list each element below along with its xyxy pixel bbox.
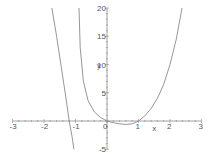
x-tick-label: 2: [167, 122, 172, 131]
x-tick-label: -1: [73, 122, 81, 131]
x-tick-label: 1: [136, 122, 141, 131]
y-tick-label: -5: [99, 145, 107, 154]
axis-labels: -3-2-10123-55101520xy: [10, 4, 204, 154]
x-axis-label: x: [152, 124, 156, 133]
y-axis-label: y: [97, 61, 101, 70]
y-tick-label: 15: [97, 32, 106, 41]
curves: [52, 8, 182, 149]
x-tick-label: -3: [10, 122, 18, 131]
curve-right: [79, 8, 182, 124]
x-tick-label: 0: [103, 122, 108, 131]
y-tick-label: 5: [102, 89, 107, 98]
plot-area: -3-2-10123-55101520xy: [0, 0, 208, 165]
x-tick-label: -2: [41, 122, 49, 131]
curve-left: [52, 8, 74, 149]
y-tick-label: 20: [97, 4, 106, 13]
x-tick-label: 3: [199, 122, 204, 131]
